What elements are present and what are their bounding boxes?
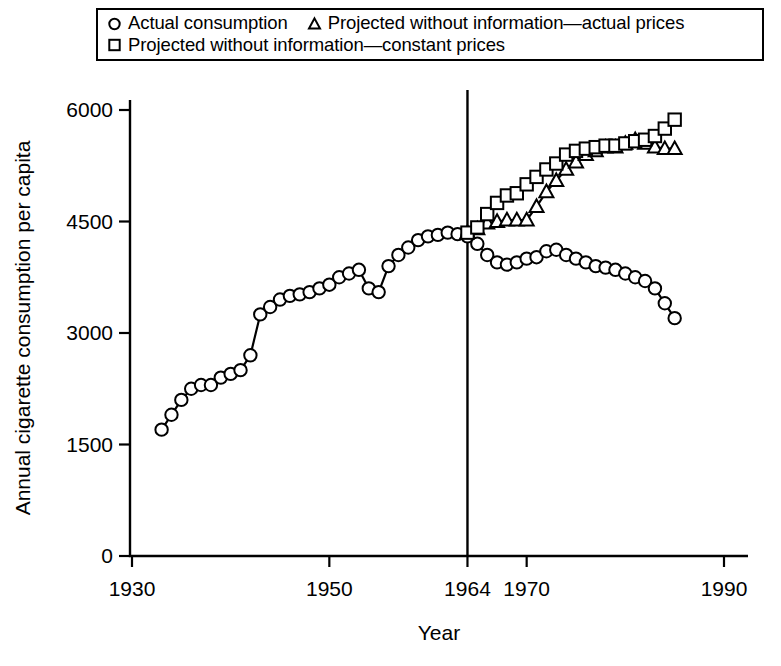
data-point-circle [175, 394, 187, 406]
x-tick-label: 1970 [503, 577, 550, 600]
legend-entry-projected-constant-prices: Projected without information—constant p… [106, 36, 505, 55]
data-point-circle [155, 423, 167, 435]
legend-entry-actual-consumption: Actual consumption [106, 14, 288, 33]
x-tick-label: 1950 [306, 577, 353, 600]
x-axis-title: Year [418, 621, 460, 644]
data-point-circle [244, 349, 256, 361]
x-tick-label: 1930 [109, 577, 156, 600]
data-point-triangle [530, 199, 544, 212]
data-point-circle [234, 364, 246, 376]
cigarette-consumption-figure: Actual consumption Projected without inf… [0, 0, 781, 666]
data-point-circle [382, 260, 394, 272]
chart-axes [130, 100, 748, 556]
data-point-circle [668, 312, 680, 324]
legend-label-projected-actual-prices: Projected without information—actual pri… [328, 14, 685, 33]
data-point-circle [372, 286, 384, 298]
data-point-square [471, 221, 483, 233]
x-tick-label: 1990 [701, 577, 748, 600]
legend-row-1: Actual consumption Projected without inf… [106, 14, 754, 33]
chart-legend: Actual consumption Projected without inf… [96, 8, 764, 61]
y-tick-label: 0 [101, 544, 113, 567]
y-tick-label: 1500 [66, 433, 113, 456]
y-tick-label: 6000 [66, 98, 113, 121]
data-point-circle [649, 282, 661, 294]
circle-marker-icon [106, 15, 123, 32]
legend-label-projected-constant-prices: Projected without information—constant p… [128, 36, 505, 55]
legend-row-2: Projected without information—constant p… [106, 36, 754, 55]
data-point-circle [165, 409, 177, 421]
data-point-circle [659, 297, 671, 309]
y-axis-title: Annual cigarette consumption per capita [11, 140, 34, 515]
y-tick-label: 4500 [66, 210, 113, 233]
triangle-marker-icon [306, 15, 323, 32]
legend-entry-projected-actual-prices: Projected without information—actual pri… [306, 14, 685, 33]
x-tick-label: 1964 [444, 577, 491, 600]
data-point-square [668, 113, 680, 125]
legend-label-actual-consumption: Actual consumption [128, 14, 288, 33]
chart-plot-area: 0150030004500600019301950196419701990Yea… [0, 0, 781, 666]
y-tick-label: 3000 [66, 321, 113, 344]
square-marker-icon [106, 36, 123, 53]
data-point-circle [353, 264, 365, 276]
